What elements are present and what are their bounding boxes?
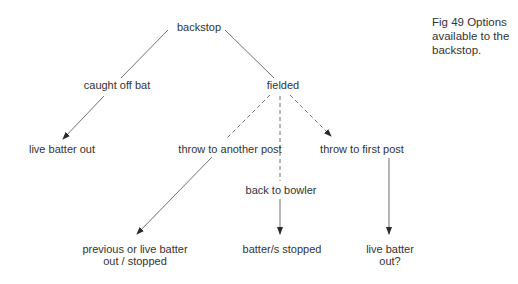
edge-backstop-fielded [225,30,274,78]
figure-caption: Fig 49 Options available to the backstop… [432,15,509,57]
node-caught-off-bat: caught off bat [84,79,150,91]
edge-backstop-caught [121,30,168,78]
node-live-batter-out: live batter out [29,143,95,155]
edge-caught-live-out [63,96,104,139]
node-fielded: fielded [267,79,299,91]
caption-line-3: backstop. [432,44,481,56]
node-live-batter-out-q-line1: live batter [366,243,414,255]
node-back-to-bowler: back to bowler [246,184,317,196]
node-live-batter-out-q-line2: out? [379,255,400,267]
node-throw-to-another-post: throw to another post [178,143,281,155]
node-previous-or-live-line2: out / stopped [103,255,167,267]
node-throw-to-first-post: throw to first post [320,143,404,155]
node-batters-stopped: batter/s stopped [243,243,322,255]
caption-line-1: Fig 49 Options [432,16,507,28]
node-backstop: backstop [177,21,221,33]
node-previous-or-live-line1: previous or live batter [82,243,187,255]
caption-line-2: available to the [432,30,509,42]
edge-fielded-first-post [290,95,331,136]
edge-another-post-previous [137,157,212,234]
edge-fielded-another-post [226,95,270,139]
